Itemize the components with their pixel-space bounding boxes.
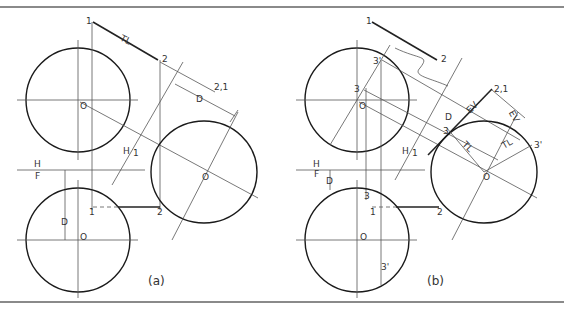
label-3-aux: 3 xyxy=(443,126,449,136)
label-o-aux: O xyxy=(483,172,490,182)
label-o-aux: O xyxy=(202,172,209,182)
aux-projector-3 xyxy=(364,90,498,160)
label-1-front: 1 xyxy=(370,207,376,217)
label-2-top: 2 xyxy=(162,54,168,64)
label-tl-2: TL xyxy=(499,137,514,151)
label-2-front: 2 xyxy=(437,207,443,217)
label-o-top: O xyxy=(80,101,87,111)
label-f: F xyxy=(314,169,319,179)
label-o-front: O xyxy=(80,232,87,242)
label-h: H xyxy=(313,159,320,169)
label-ev-1: EV xyxy=(464,99,480,115)
label-1-top: 1 xyxy=(86,16,92,26)
label-d-front: D xyxy=(326,176,333,186)
label-d-aux: D xyxy=(445,112,452,122)
label-21-aux: 2,1 xyxy=(494,84,508,94)
tl-radius-2 xyxy=(484,145,532,172)
label-h1-sub: 1 xyxy=(412,148,418,158)
drawing-canvas: 1 TL 2 2,1 D O H 1 O H F D O 1 2 (a) xyxy=(0,0,564,309)
label-3p-front: 3' xyxy=(381,262,389,272)
label-h1: H xyxy=(402,146,409,156)
label-2-top: 2 xyxy=(441,54,447,64)
label-3p-top: 3' xyxy=(373,56,381,66)
label-f: F xyxy=(35,171,40,181)
label-h: H xyxy=(34,159,41,169)
figure-a: 1 TL 2 2,1 D O H 1 O H F D O 1 2 (a) xyxy=(17,16,258,298)
label-1-top: 1 xyxy=(366,16,372,26)
label-3-front: 3 xyxy=(364,191,370,201)
center-projector xyxy=(80,102,258,198)
label-d-front: D xyxy=(61,217,68,227)
label-3-top: 3 xyxy=(354,84,360,94)
label-1-front: 1 xyxy=(89,207,95,217)
label-o-front: O xyxy=(360,232,367,242)
figure-b: 1 2 3' 3 O 2,1 EV EV D 3 TL TL 3' H 1 O … xyxy=(296,16,542,298)
fold-line-h1 xyxy=(112,62,183,185)
edge-view-line xyxy=(428,89,492,155)
label-h1-sub: 1 xyxy=(133,148,139,158)
label-3p-aux: 3' xyxy=(534,140,542,150)
caption-a: (a) xyxy=(148,274,165,288)
label-d-aux: D xyxy=(196,94,203,104)
label-h1: H xyxy=(123,146,130,156)
label-2-front: 2 xyxy=(157,207,163,217)
caption-b: (b) xyxy=(427,274,444,288)
label-21-aux: 2,1 xyxy=(214,82,228,92)
label-ev-2: EV xyxy=(507,109,522,125)
label-o-top: O xyxy=(359,101,366,111)
